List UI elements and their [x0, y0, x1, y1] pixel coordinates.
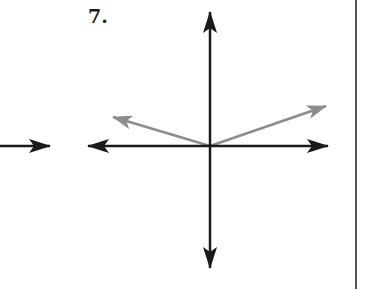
vector-up-right — [210, 106, 326, 146]
diagram-canvas: 7. — [0, 0, 371, 289]
column-divider-line — [355, 0, 357, 289]
vector-diagram — [0, 0, 371, 289]
vector-up-left — [113, 117, 210, 146]
